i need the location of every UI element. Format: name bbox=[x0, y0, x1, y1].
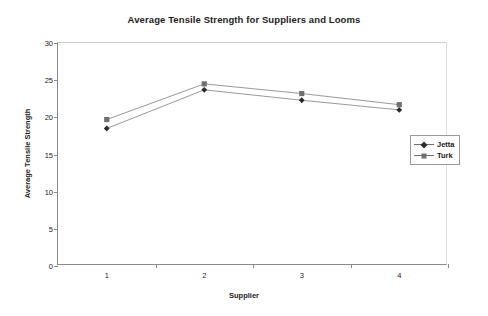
diamond-marker-icon bbox=[414, 140, 434, 149]
x-axis-tick-label: 3 bbox=[300, 271, 304, 280]
data-point-jetta bbox=[104, 126, 110, 132]
data-point-jetta bbox=[201, 87, 207, 93]
legend-item[interactable]: Jetta bbox=[414, 139, 455, 150]
x-axis-tick-mark bbox=[448, 264, 449, 268]
data-point-jetta bbox=[396, 107, 402, 113]
chart-title: Average Tensile Strength for Suppliers a… bbox=[0, 14, 488, 25]
plot-area: 051015202530 1234 bbox=[57, 42, 447, 265]
chart-container: Average Tensile Strength for Suppliers a… bbox=[0, 0, 488, 316]
legend-item-label: Turk bbox=[437, 151, 453, 160]
data-point-turk bbox=[299, 91, 304, 96]
data-point-turk bbox=[104, 117, 109, 122]
chart-legend: Jetta Turk bbox=[410, 135, 460, 165]
data-point-turk bbox=[397, 102, 402, 107]
x-axis-tick-label: 1 bbox=[105, 271, 109, 280]
data-point-turk bbox=[202, 81, 207, 86]
legend-item-label: Jetta bbox=[437, 140, 455, 149]
x-axis-title: Supplier bbox=[0, 291, 488, 300]
x-axis-tick-label: 2 bbox=[202, 271, 206, 280]
series-line-jetta bbox=[107, 90, 400, 129]
y-axis-title: Average Tensile Strength bbox=[22, 42, 34, 265]
data-point-jetta bbox=[299, 97, 305, 103]
series-plot bbox=[58, 43, 448, 266]
square-marker-icon bbox=[414, 151, 434, 160]
legend-item[interactable]: Turk bbox=[414, 150, 455, 161]
y-axis-tick-mark bbox=[54, 266, 58, 267]
x-axis-tick-label: 4 bbox=[397, 271, 401, 280]
series-line-turk bbox=[107, 84, 400, 120]
y-axis-title-label: Average Tensile Strength bbox=[24, 109, 33, 199]
